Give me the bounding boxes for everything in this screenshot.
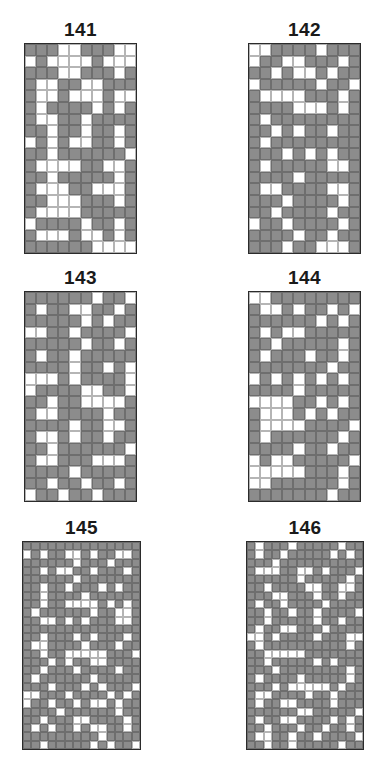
filled-cell bbox=[327, 292, 338, 304]
filled-cell bbox=[92, 373, 103, 385]
filled-cell bbox=[280, 658, 288, 666]
filled-cell bbox=[316, 304, 327, 316]
filled-cell bbox=[260, 362, 271, 374]
empty-cell bbox=[47, 114, 58, 126]
filled-cell bbox=[346, 741, 354, 749]
filled-cell bbox=[305, 90, 316, 102]
filled-cell bbox=[31, 716, 39, 724]
empty-cell bbox=[271, 373, 282, 385]
filled-cell bbox=[58, 431, 69, 443]
filled-cell bbox=[23, 542, 31, 550]
filled-cell bbox=[107, 567, 115, 575]
filled-cell bbox=[48, 741, 56, 749]
filled-cell bbox=[48, 641, 56, 649]
filled-cell bbox=[48, 567, 56, 575]
empty-cell bbox=[114, 478, 125, 490]
empty-cell bbox=[327, 362, 338, 374]
empty-cell bbox=[346, 716, 354, 724]
filled-cell bbox=[114, 315, 125, 327]
filled-cell bbox=[125, 230, 136, 242]
filled-cell bbox=[313, 674, 321, 682]
filled-cell bbox=[305, 550, 313, 558]
filled-cell bbox=[125, 466, 136, 478]
empty-cell bbox=[338, 315, 349, 327]
filled-cell bbox=[81, 625, 89, 633]
filled-cell bbox=[31, 550, 39, 558]
filled-cell bbox=[107, 633, 115, 641]
pattern-grid-143 bbox=[24, 291, 137, 502]
empty-cell bbox=[65, 583, 73, 591]
filled-cell bbox=[98, 633, 106, 641]
filled-cell bbox=[288, 633, 296, 641]
empty-cell bbox=[338, 350, 349, 362]
filled-cell bbox=[305, 79, 316, 91]
empty-cell bbox=[260, 292, 271, 304]
filled-cell bbox=[125, 195, 136, 207]
empty-cell bbox=[81, 90, 92, 102]
filled-cell bbox=[346, 732, 354, 740]
filled-cell bbox=[73, 732, 81, 740]
empty-cell bbox=[114, 230, 125, 242]
filled-cell bbox=[114, 327, 125, 339]
filled-cell bbox=[98, 600, 106, 608]
filled-cell bbox=[69, 443, 80, 455]
filled-cell bbox=[327, 478, 338, 490]
filled-cell bbox=[349, 56, 360, 68]
empty-cell bbox=[114, 125, 125, 137]
empty-cell bbox=[327, 408, 338, 420]
filled-cell bbox=[305, 699, 313, 707]
filled-cell bbox=[305, 466, 316, 478]
filled-cell bbox=[272, 608, 280, 616]
filled-cell bbox=[282, 137, 293, 149]
filled-cell bbox=[271, 195, 282, 207]
filled-cell bbox=[322, 650, 330, 658]
filled-cell bbox=[48, 691, 56, 699]
filled-cell bbox=[31, 583, 39, 591]
filled-cell bbox=[69, 241, 80, 253]
filled-cell bbox=[249, 137, 260, 149]
filled-cell bbox=[125, 350, 136, 362]
filled-cell bbox=[103, 79, 114, 91]
empty-cell bbox=[282, 148, 293, 160]
filled-cell bbox=[90, 583, 98, 591]
filled-cell bbox=[58, 443, 69, 455]
filled-cell bbox=[47, 385, 58, 397]
filled-cell bbox=[260, 67, 271, 79]
filled-cell bbox=[58, 218, 69, 230]
filled-cell bbox=[25, 362, 36, 374]
filled-cell bbox=[25, 420, 36, 432]
filled-cell bbox=[327, 315, 338, 327]
filled-cell bbox=[247, 575, 255, 583]
empty-cell bbox=[92, 489, 103, 501]
empty-cell bbox=[346, 575, 354, 583]
empty-cell bbox=[73, 600, 81, 608]
filled-cell bbox=[73, 708, 81, 716]
empty-cell bbox=[305, 583, 313, 591]
filled-cell bbox=[115, 658, 123, 666]
filled-cell bbox=[125, 431, 136, 443]
filled-cell bbox=[132, 542, 140, 550]
filled-cell bbox=[92, 207, 103, 219]
filled-cell bbox=[338, 625, 346, 633]
filled-cell bbox=[282, 207, 293, 219]
filled-cell bbox=[330, 542, 338, 550]
filled-cell bbox=[305, 559, 313, 567]
filled-cell bbox=[288, 559, 296, 567]
filled-cell bbox=[327, 466, 338, 478]
filled-cell bbox=[36, 478, 47, 490]
filled-cell bbox=[123, 542, 131, 550]
empty-cell bbox=[25, 327, 36, 339]
filled-cell bbox=[349, 396, 360, 408]
filled-cell bbox=[58, 408, 69, 420]
filled-cell bbox=[48, 583, 56, 591]
filled-cell bbox=[132, 592, 140, 600]
empty-cell bbox=[48, 658, 56, 666]
filled-cell bbox=[313, 550, 321, 558]
filled-cell bbox=[81, 350, 92, 362]
filled-cell bbox=[338, 608, 346, 616]
filled-cell bbox=[90, 716, 98, 724]
filled-cell bbox=[81, 466, 92, 478]
filled-cell bbox=[23, 567, 31, 575]
filled-cell bbox=[349, 148, 360, 160]
filled-cell bbox=[349, 207, 360, 219]
